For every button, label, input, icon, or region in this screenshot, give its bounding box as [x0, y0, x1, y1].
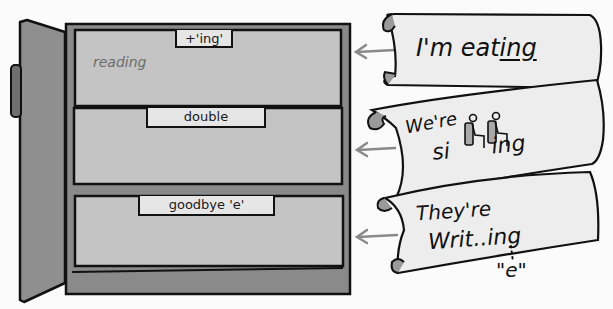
spelling-rules-illustration: +'ing' reading double goodbye 'e' I'm ea… — [0, 0, 613, 309]
arrow-left-icon — [356, 45, 395, 58]
drawer-label-goodbye-e: goodbye 'e' — [138, 196, 275, 216]
arrow-left-icon — [357, 143, 395, 156]
drawer-content-reading: reading — [93, 54, 146, 70]
cabinet-door — [11, 20, 65, 302]
drawer-label-double: double — [146, 108, 266, 128]
scroll-1-text: I'm eating — [416, 34, 537, 62]
scroll-2-suffix: ing — [490, 130, 526, 158]
arrow-left-icon — [357, 230, 397, 243]
scroll-1-suffix: ing — [500, 34, 537, 62]
dropped-letter-e: "e" — [496, 258, 527, 282]
drawer-label-ing: +'ing' — [175, 30, 233, 48]
scroll-2-prefix: si — [431, 138, 451, 165]
scroll-1-prefix: I'm eat — [416, 34, 500, 62]
